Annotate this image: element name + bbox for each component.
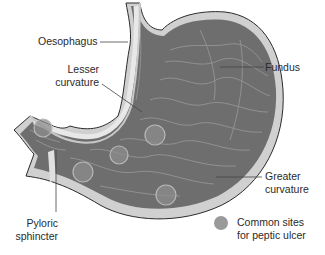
legend-text-line2: for peptic ulcer — [237, 229, 306, 242]
label-pyloric-sphincter-line1: Pyloric — [14, 217, 58, 230]
ulcer-site-lesser-upper — [145, 125, 165, 145]
label-greater-curvature-line2: curvature — [265, 183, 309, 196]
ulcer-site-greater — [156, 185, 176, 205]
ulcer-site-lesser-lower — [110, 146, 128, 164]
legend-ulcer-marker — [214, 216, 228, 230]
legend-text-line1: Common sites — [237, 216, 306, 229]
label-pyloric-sphincter-line2: sphincter — [14, 230, 58, 243]
legend-text: Common sites for peptic ulcer — [237, 216, 306, 242]
ulcer-site-antrum — [73, 162, 93, 182]
label-lesser-curvature: Lesser curvature — [55, 63, 99, 89]
label-oesophagus: Oesophagus — [38, 35, 98, 48]
label-greater-curvature-line1: Greater — [265, 170, 309, 183]
label-lesser-curvature-line1: Lesser — [55, 63, 99, 76]
label-greater-curvature: Greater curvature — [265, 170, 309, 196]
label-lesser-curvature-line2: curvature — [55, 76, 99, 89]
label-pyloric-sphincter: Pyloric sphincter — [14, 217, 58, 243]
ulcer-site-pylorus — [34, 119, 52, 137]
label-fundus: Fundus — [265, 61, 300, 74]
